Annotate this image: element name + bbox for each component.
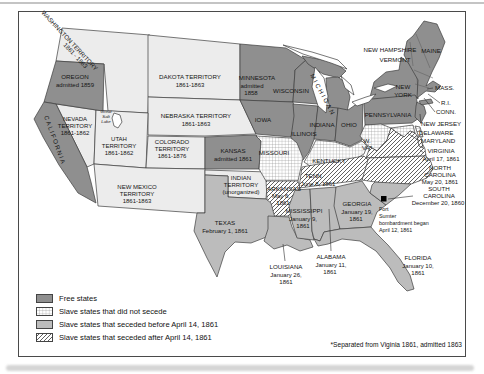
label-kentucky: KENTUCKY bbox=[312, 157, 346, 164]
label-nevada-years: 1861-1862 bbox=[61, 130, 90, 136]
label-arkansas: ARKANSAS bbox=[267, 185, 301, 192]
label-massachusetts: MASS. bbox=[435, 84, 455, 91]
label-minnesota: MINNESOTA bbox=[239, 74, 276, 81]
label-fort-sumter-4: April 12, 1861 bbox=[379, 227, 412, 233]
label-iowa: IOWA bbox=[255, 116, 272, 123]
label-colorado: COLORADO bbox=[155, 139, 190, 145]
label-dakota-years: 1861-1863 bbox=[176, 82, 205, 88]
label-south-carolina-date: December 20, 1860 bbox=[412, 200, 465, 206]
label-utah: UTAH bbox=[111, 136, 127, 142]
label-tennessee-date: June 8, 1861 bbox=[301, 181, 336, 187]
label-utah-2: TERRITORY bbox=[102, 143, 136, 149]
label-florida-year: 1861 bbox=[411, 270, 425, 276]
label-arkansas-date: May 6, bbox=[272, 193, 290, 199]
legend-label-after: Slave states that seceded after April 14… bbox=[59, 333, 212, 342]
label-louisiana: LOUISIANA bbox=[269, 263, 303, 270]
label-north-carolina-2: CAROLINA bbox=[424, 171, 457, 178]
label-nebraska: NEBRASKA TERRITORY bbox=[161, 112, 232, 119]
label-arkansas-year: 1861 bbox=[276, 200, 290, 206]
map-footnote: *Separated from Viginia 1861, admitted 1… bbox=[331, 341, 462, 348]
label-florida-date: January 10, bbox=[402, 263, 434, 269]
territory-dakota bbox=[148, 35, 240, 100]
label-great-salt-lake-3: Lake bbox=[101, 119, 111, 124]
label-oregon-note: admitted 1859 bbox=[56, 82, 95, 88]
label-colorado-years: 1861-1876 bbox=[158, 153, 187, 159]
label-west-virginia-2: VA* bbox=[362, 144, 373, 151]
label-nebraska-years: 1861-1863 bbox=[182, 121, 211, 127]
label-georgia-date: January 19, bbox=[341, 209, 373, 215]
label-new-mexico-2: TERRITORY bbox=[120, 191, 154, 197]
legend-row-after: Slave states that seceded after April 14… bbox=[36, 331, 218, 344]
label-pennsylvania: PENNSYLVANIA bbox=[365, 111, 412, 118]
label-louisiana-year: 1861 bbox=[279, 279, 293, 285]
label-alabama-year: 1861 bbox=[323, 269, 337, 275]
legend-row-free: Free states bbox=[36, 292, 218, 305]
label-nevada: NEVADA bbox=[63, 116, 87, 122]
label-virginia: VIRGINIA bbox=[427, 147, 455, 154]
label-south-carolina-2: CAROLINA bbox=[423, 192, 456, 199]
label-illinois: ILLINOIS bbox=[291, 130, 316, 137]
label-missouri: MISSOURI bbox=[259, 149, 290, 156]
label-north-carolina: NORTH bbox=[429, 164, 451, 171]
label-fort-sumter: Fort bbox=[379, 206, 389, 212]
label-alabama: ALABAMA bbox=[316, 253, 346, 260]
label-new-jersey: NEW JERSEY bbox=[421, 120, 461, 127]
legend-swatch-before bbox=[36, 320, 53, 329]
legend-label-before: Slave states that seceded before April 1… bbox=[59, 320, 218, 329]
label-connecticut: CONN. bbox=[436, 108, 456, 115]
label-maine: MAINE bbox=[421, 47, 441, 54]
label-texas: TEXAS bbox=[215, 219, 235, 226]
label-indian-territory: INDIAN bbox=[231, 175, 251, 181]
label-minnesota-year: 1858 bbox=[244, 90, 258, 96]
label-ohio: OHIO bbox=[341, 121, 357, 128]
label-louisiana-date: January 26, bbox=[270, 272, 302, 278]
label-maryland: MARYLAND bbox=[421, 137, 456, 144]
label-minnesota-note: admitted bbox=[240, 83, 263, 89]
label-nevada-2: TERRITORY bbox=[58, 123, 92, 129]
legend-row-no-secede: Slave states that did not secede bbox=[36, 305, 218, 318]
state-missouri bbox=[256, 136, 303, 181]
label-indian-territory-2: TERRITORY bbox=[224, 182, 258, 188]
label-kansas: KANSAS bbox=[220, 147, 245, 154]
label-delaware: DELAWARE bbox=[419, 129, 453, 136]
label-mississippi-date: January 9, bbox=[289, 216, 317, 222]
label-west-virginia: W. bbox=[363, 137, 370, 144]
label-vermont: VERMONT bbox=[380, 56, 411, 63]
label-kansas-note: admitted 1861 bbox=[214, 156, 253, 162]
label-new-mexico: NEW MEXICO bbox=[117, 184, 157, 190]
label-new-mexico-years: 1861-1863 bbox=[123, 198, 152, 204]
label-indian-territory-3: (unorganized) bbox=[222, 189, 259, 195]
label-georgia-year: 1861 bbox=[349, 216, 363, 222]
label-rhode-island: R.I. bbox=[441, 99, 451, 106]
legend-row-before: Slave states that seceded before April 1… bbox=[36, 318, 218, 331]
fort-sumter-marker-icon bbox=[381, 196, 387, 202]
label-tennessee: TENN. bbox=[305, 172, 324, 179]
label-indiana: INDIANA bbox=[309, 121, 335, 128]
scan-artifact-streak bbox=[6, 365, 474, 371]
label-florida: FLORIDA bbox=[405, 254, 433, 261]
label-new-york-2: YORK bbox=[394, 91, 412, 98]
label-dakota: DAKOTA TERRITORY bbox=[159, 73, 221, 80]
label-oregon: OREGON bbox=[61, 73, 89, 80]
legend-swatch-after bbox=[36, 333, 53, 342]
secession-map-figure: WASHINGTON TERRITORY 1861 - 1863 DAKOTA … bbox=[0, 0, 484, 374]
label-fort-sumter-2: Sumter bbox=[379, 213, 397, 219]
label-georgia: GEORGIA bbox=[343, 200, 373, 207]
label-wisconsin: WISCONSIN bbox=[273, 87, 309, 94]
label-mississippi-year: 1861 bbox=[296, 223, 310, 229]
label-virginia-date: April 17, 1861 bbox=[422, 156, 460, 162]
leader-louisiana bbox=[283, 244, 285, 261]
label-fort-sumter-3: bombardment began bbox=[379, 220, 429, 226]
label-new-york: NEW bbox=[396, 83, 411, 90]
label-mississippi: MISSISSIPPI bbox=[286, 207, 323, 214]
label-texas-date: February 1, 1861 bbox=[202, 228, 248, 234]
label-south-carolina: SOUTH bbox=[428, 185, 450, 192]
label-new-hampshire: NEW HAMPSHIRE bbox=[364, 46, 417, 53]
label-colorado-2: TERRITORY bbox=[155, 146, 189, 152]
label-alabama-date: January 11, bbox=[316, 262, 347, 268]
legend-swatch-free bbox=[36, 294, 53, 303]
legend-swatch-grid bbox=[36, 307, 53, 316]
legend-label-free: Free states bbox=[59, 294, 97, 303]
label-utah-years: 1861-1862 bbox=[105, 150, 134, 156]
map-legend: Free states Slave states that did not se… bbox=[36, 292, 218, 344]
